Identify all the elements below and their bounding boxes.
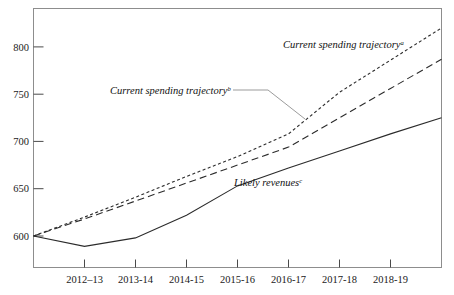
x-axis-label-2018-19: 2018-19: [373, 274, 408, 285]
x-axis-label-2015-16: 2015-16: [220, 274, 255, 285]
x-axis-label-2014-15: 2014-15: [169, 274, 204, 285]
annotation-text-a: Current spending trajectory: [283, 39, 401, 50]
annotation-superscript-b: b: [227, 85, 231, 92]
y-axis-labels: 800 750 700 650 600: [13, 42, 29, 242]
annotation-leader-lines: [233, 90, 305, 119]
leader-line-dashed-series: [233, 90, 305, 119]
y-axis-label-800: 800: [13, 42, 29, 53]
line-chart: 800 750 700 650 600 2012–13 2013-14 2014…: [0, 0, 454, 295]
annotation-solid-series: Likely revenuesc: [233, 177, 302, 188]
annotation-text-b: Current spending trajectory: [110, 85, 228, 96]
x-axis-label-2012-13: 2012–13: [66, 274, 103, 285]
data-series: [34, 28, 442, 246]
series-line-current-spending-trajectory-b: [34, 59, 442, 236]
x-axis-label-2016-17: 2016-17: [271, 274, 306, 285]
y-axis-label-750: 750: [13, 89, 29, 100]
annotation-label-likely-revenues: Likely revenuesc: [233, 177, 302, 188]
annotation-dotted-series: Current spending trajectorya: [283, 39, 404, 50]
annotation-superscript-c: c: [299, 177, 302, 184]
series-line-current-spending-trajectory-a: [34, 28, 442, 236]
annotation-label-trajectory-a: Current spending trajectorya: [283, 39, 404, 50]
x-axis-label-2013-14: 2013-14: [118, 274, 154, 285]
x-axis-label-2017-18: 2017-18: [322, 274, 357, 285]
annotation-text-c: Likely revenues: [233, 177, 299, 188]
y-axis-label-700: 700: [13, 136, 29, 147]
annotation-label-trajectory-b: Current spending trajectoryb: [110, 85, 231, 96]
y-axis-label-600: 600: [13, 231, 29, 242]
y-axis-label-650: 650: [13, 183, 29, 194]
y-axis-ticks: [34, 47, 44, 236]
annotation-superscript-a: a: [400, 39, 404, 46]
x-axis-labels: 2012–13 2013-14 2014-15 2015-16 2016-17 …: [66, 274, 408, 285]
x-axis-ticks: [85, 260, 391, 268]
annotation-dashed-series: Current spending trajectoryb: [110, 85, 231, 96]
chart-container: 800 750 700 650 600 2012–13 2013-14 2014…: [0, 0, 454, 295]
